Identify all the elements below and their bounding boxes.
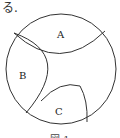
region-label-c: C [55,106,63,117]
circle-diagram: A B C [0,0,120,138]
figure-caption: 図 1 [50,131,70,138]
region-label-b: B [19,70,26,81]
region-label-a: A [56,29,65,40]
arc-c [41,85,87,122]
